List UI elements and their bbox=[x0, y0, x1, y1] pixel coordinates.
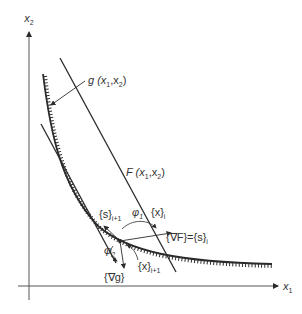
constraint-curve-g bbox=[43, 74, 274, 266]
x-axis-label: x1 bbox=[282, 280, 293, 294]
g-label: g (x1,x2) bbox=[88, 74, 126, 88]
tangent-line bbox=[41, 124, 116, 263]
y-axis-label: x2 bbox=[23, 12, 34, 26]
x-next-label: {x}i+1 bbox=[138, 260, 161, 274]
optimization-diagram: x2 x1 g (x1,x2) F (x1,x2) {s}i+1 φ1 {x}i… bbox=[0, 0, 302, 314]
x-i-label: {x}i bbox=[151, 206, 166, 220]
phi2-label: φ2 bbox=[104, 244, 115, 258]
x-next-point bbox=[118, 239, 122, 243]
grad-g-label: {∇g} bbox=[104, 271, 125, 283]
F-label: F (x1,x2) bbox=[126, 166, 165, 180]
s-next-label: {s}i+1 bbox=[99, 208, 122, 222]
gradF-label: {∇F}={s}i bbox=[166, 231, 208, 245]
grad-g-vector bbox=[120, 241, 124, 268]
gradF-vector bbox=[120, 233, 171, 241]
g-label-leader bbox=[51, 81, 85, 105]
